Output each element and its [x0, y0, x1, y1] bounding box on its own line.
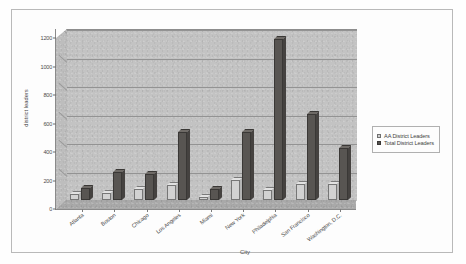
- y-axis-line: [55, 29, 56, 210]
- x-axis-tick-mark: [82, 209, 83, 212]
- chart-figure: 020040060080010001200 AtlantaBostonChica…: [0, 0, 466, 264]
- bar-group: [66, 29, 98, 200]
- x-axis-tick-mark: [114, 209, 115, 212]
- x-axis-tick-mark: [340, 209, 341, 212]
- bar-side-face: [219, 187, 222, 200]
- bar: [102, 193, 111, 200]
- chart-legend: AA District Leaders Total District Leade…: [372, 126, 440, 153]
- bar: [242, 132, 251, 200]
- y-axis-title: district leaders: [23, 68, 29, 148]
- y-axis-tick-mark: [53, 180, 56, 181]
- bar: [178, 132, 187, 200]
- x-axis-title: City: [12, 249, 466, 255]
- bar-side-face: [251, 129, 254, 200]
- bar: [134, 189, 143, 200]
- bar-side-face: [187, 129, 190, 200]
- y-axis-tick-mark: [53, 95, 56, 96]
- y-axis-tick-mark: [53, 152, 56, 153]
- legend-item-label: Total District Leaders: [384, 140, 434, 146]
- x-axis-tick-label: Washington, D.C.: [306, 212, 343, 243]
- legend-swatch-icon: [377, 141, 381, 145]
- bar-front-face: [199, 197, 208, 200]
- bar-front-face: [263, 190, 272, 200]
- bar: [81, 188, 90, 200]
- bar-front-face: [113, 172, 122, 200]
- bar: [296, 184, 305, 200]
- bar-front-face: [134, 189, 143, 200]
- x-axis-tick-mark: [179, 209, 180, 212]
- x-axis-tick-mark: [211, 209, 212, 212]
- bar: [70, 194, 79, 200]
- bar: [307, 114, 316, 200]
- x-axis-tick-label: Los Angeles: [155, 212, 182, 235]
- bar-group: [324, 29, 356, 200]
- bar-front-face: [296, 184, 305, 200]
- x-axis-tick-label: Philadelphia: [251, 212, 278, 235]
- bar-series-container: [66, 29, 356, 209]
- bar-group: [98, 29, 130, 200]
- legend-swatch-icon: [377, 134, 381, 138]
- x-axis-tick-mark: [308, 209, 309, 212]
- x-axis-tick-label: Miami: [199, 212, 214, 226]
- x-axis-tick-label: San Francisco: [279, 212, 310, 238]
- bar-front-face: [307, 114, 316, 200]
- bar-front-face: [328, 184, 337, 200]
- bar: [113, 172, 122, 200]
- bar-front-face: [231, 180, 240, 200]
- y-axis-tick-label: 1200: [41, 35, 52, 41]
- bar-front-face: [70, 194, 79, 200]
- y-axis-tick-label: 1000: [41, 64, 52, 70]
- bar: [145, 174, 154, 200]
- bar-side-face: [348, 145, 351, 200]
- y-axis-ticks: 020040060080010001200: [26, 29, 52, 209]
- bar: [199, 197, 208, 200]
- bar-front-face: [210, 189, 219, 200]
- y-axis-tick-label: 200: [43, 178, 52, 184]
- bar-group: [195, 29, 227, 200]
- legend-item-label: AA District Leaders: [384, 133, 430, 139]
- bar-side-face: [122, 170, 125, 200]
- bar-side-face: [90, 185, 93, 200]
- x-axis-tick-mark: [275, 209, 276, 212]
- bar-group: [292, 29, 324, 200]
- bar: [263, 190, 272, 200]
- bar-side-face: [154, 172, 157, 200]
- x-axis-tick-mark: [147, 209, 148, 212]
- y-axis-tick-mark: [53, 38, 56, 39]
- bar: [339, 148, 348, 200]
- y-axis-tick-mark: [53, 66, 56, 67]
- bar-front-face: [242, 132, 251, 200]
- x-axis-tick-label: New York: [224, 212, 246, 231]
- bar-side-face: [316, 111, 319, 200]
- bar-front-face: [167, 185, 176, 200]
- bar-group: [163, 29, 195, 200]
- y-axis-tick-label: 0: [49, 206, 52, 212]
- chart-frame: 020040060080010001200 AtlantaBostonChica…: [11, 9, 453, 253]
- bar: [274, 39, 283, 200]
- bar-side-face: [283, 36, 286, 200]
- y-axis-tick-label: 800: [43, 92, 52, 98]
- bar-group: [130, 29, 162, 200]
- legend-item-aa-district-leaders: AA District Leaders: [377, 133, 434, 139]
- x-axis-tick-mark: [243, 209, 244, 212]
- x-axis-tick-label: Boston: [100, 212, 117, 227]
- bar-front-face: [102, 193, 111, 200]
- bar: [231, 180, 240, 200]
- legend-item-total-district-leaders: Total District Leaders: [377, 140, 434, 146]
- bar-front-face: [274, 39, 283, 200]
- bar-group: [227, 29, 259, 200]
- bar: [167, 185, 176, 200]
- x-axis-tick-label: Atlanta: [68, 212, 85, 227]
- bar: [210, 189, 219, 200]
- bar-front-face: [178, 132, 187, 200]
- y-axis-tick-mark: [53, 123, 56, 124]
- bar-group: [259, 29, 291, 200]
- bar: [328, 184, 337, 200]
- bar-front-face: [339, 148, 348, 200]
- x-axis-tick-label: Chicago: [130, 212, 149, 229]
- y-axis-tick-label: 600: [43, 121, 52, 127]
- bar-front-face: [81, 188, 90, 200]
- y-axis-tick-label: 400: [43, 149, 52, 155]
- bar-front-face: [145, 174, 154, 200]
